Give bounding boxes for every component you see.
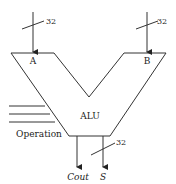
input-b-width: 32: [157, 17, 167, 26]
output-cout-label: Cout: [67, 172, 89, 182]
alu-diagram: 32 A 32 B ALU Operation Cout 32 S: [0, 0, 176, 184]
operation-control: Operation: [9, 106, 62, 139]
output-s-label: S: [100, 172, 106, 182]
alu-label: ALU: [79, 111, 100, 121]
operation-label: Operation: [16, 129, 62, 139]
input-b-label: B: [144, 56, 151, 66]
input-a: 32 A: [22, 12, 56, 66]
input-a-label: A: [29, 56, 37, 66]
input-a-width: 32: [46, 17, 56, 26]
output-cout: Cout: [67, 136, 89, 182]
output-s-width: 32: [116, 138, 126, 147]
output-s: 32 S: [91, 136, 126, 182]
